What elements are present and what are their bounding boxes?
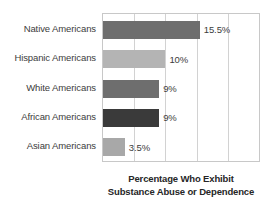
bar-row: 10%	[103, 44, 259, 73]
bar-native-americans	[103, 21, 200, 39]
category-label-asian-americans: Asian Americans	[27, 140, 96, 151]
bar-value-white-americans: 9%	[163, 83, 177, 94]
bar-hispanic-americans	[103, 50, 165, 68]
category-label-native-americans: Native Americans	[24, 23, 96, 34]
bar-row: 3.5%	[103, 133, 259, 162]
bar-value-african-americans: 9%	[163, 112, 177, 123]
bar-asian-americans	[103, 138, 125, 156]
plot-area: 15.5% 10% 9% 9% 3.5%	[102, 13, 260, 162]
category-label-african-americans: African Americans	[21, 111, 96, 122]
caption-line-2: Substance Abuse or Dependence	[102, 185, 260, 198]
category-label-row: African Americans	[0, 102, 100, 131]
bar-white-americans	[103, 80, 159, 98]
bar-value-native-americans: 15.5%	[204, 24, 230, 35]
bar-african-americans	[103, 109, 159, 127]
bar-chart-figure: Native Americans Hispanic Americans Whit…	[0, 0, 274, 214]
caption-line-1: Percentage Who Exhibit	[102, 172, 260, 185]
bars-layer: 15.5% 10% 9% 9% 3.5%	[103, 15, 259, 162]
bar-row: 9%	[103, 74, 259, 103]
bar-row: 15.5%	[103, 15, 259, 44]
bar-value-hispanic-americans: 10%	[169, 54, 188, 65]
category-label-row: Hispanic Americans	[0, 43, 100, 72]
x-axis-caption: Percentage Who Exhibit Substance Abuse o…	[102, 172, 260, 198]
category-label-hispanic-americans: Hispanic Americans	[14, 52, 96, 63]
category-label-white-americans: White Americans	[26, 82, 96, 93]
category-label-row: Native Americans	[0, 14, 100, 43]
bar-value-asian-americans: 3.5%	[129, 142, 150, 153]
category-label-row: Asian Americans	[0, 131, 100, 160]
category-label-row: White Americans	[0, 72, 100, 101]
bar-row: 9%	[103, 103, 259, 132]
category-axis-labels: Native Americans Hispanic Americans Whit…	[0, 14, 100, 160]
